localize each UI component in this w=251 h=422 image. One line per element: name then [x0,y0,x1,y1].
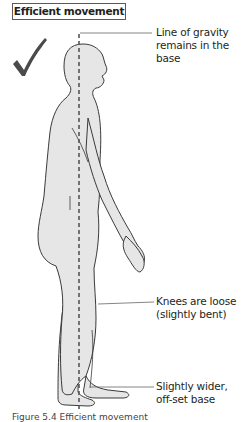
figure-caption: Figure 5.4 Efficient movement [12,412,148,422]
label-wider-base: Slightly wider, off-set base [156,380,228,406]
check-icon [13,38,47,76]
label-knees-loose: Knees are loose (slightly bent) [156,295,236,321]
human-figure [38,44,145,406]
label-line-of-gravity: Line of gravity remains in the base [156,26,251,65]
leader-line-knees [98,302,154,304]
